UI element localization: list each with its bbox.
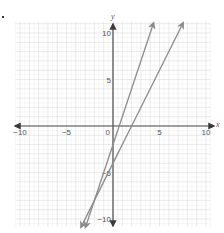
x-tick-label: −5 [62,128,72,137]
x-tick-label: 5 [157,128,162,137]
tick-labels: xy−10−5510105−5−100 [13,12,220,224]
y-tick-label: 5 [107,76,112,85]
y-tick-label: −10 [97,215,111,224]
x-tick-label: 10 [202,128,211,137]
x-tick-label: −10 [13,128,27,137]
coordinate-plane: xy−10−5510105−5−100 [0,0,224,233]
x-axis-label: x [215,120,220,129]
y-tick-label: 10 [102,29,111,38]
y-axis-label: y [110,12,115,21]
plot-lines [81,23,183,228]
origin-label: 0 [106,128,111,137]
line-2 [81,23,183,228]
